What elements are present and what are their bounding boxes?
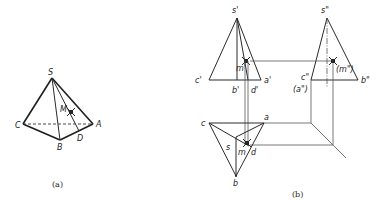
- caption-a: (a): [52, 180, 63, 189]
- caption-b: (b): [292, 190, 303, 199]
- label-C: C: [15, 121, 21, 130]
- label-c-prime: c': [195, 76, 202, 85]
- pyramid-projection-diagram: S M C A B D (a) s' m' c' a' b' d': [0, 0, 383, 213]
- figure-a-pyramid: S M C A B D: [15, 68, 101, 152]
- label-s: s: [226, 143, 230, 152]
- label-c: c: [201, 119, 206, 128]
- label-A: A: [95, 120, 101, 129]
- label-S: S: [48, 68, 53, 77]
- label-m-double-prime: (m"): [336, 65, 354, 74]
- label-c-double-prime: c": [301, 73, 309, 82]
- top-view: c a s m d b: [201, 113, 269, 188]
- label-s-double-prime: s": [321, 6, 329, 15]
- front-view: s' m' c' a' b' d': [195, 6, 271, 95]
- label-a-prime: a': [264, 76, 271, 85]
- label-b-prime: b': [232, 86, 239, 95]
- label-a: a: [264, 113, 269, 122]
- label-a-double-prime: (a"): [293, 85, 308, 94]
- label-b-double-prime: b": [361, 76, 370, 85]
- label-D: D: [77, 134, 83, 143]
- label-b: b: [233, 179, 238, 188]
- label-d: d: [251, 148, 257, 157]
- label-m: m: [238, 148, 246, 157]
- side-view: s" (m") c" (a") b": [293, 6, 370, 94]
- label-d-prime: d': [251, 86, 258, 95]
- label-m-prime: m': [236, 64, 246, 73]
- label-M: M: [60, 105, 67, 114]
- label-B: B: [57, 143, 63, 152]
- projection-lines: [245, 61, 346, 158]
- label-s-prime: s': [232, 6, 238, 15]
